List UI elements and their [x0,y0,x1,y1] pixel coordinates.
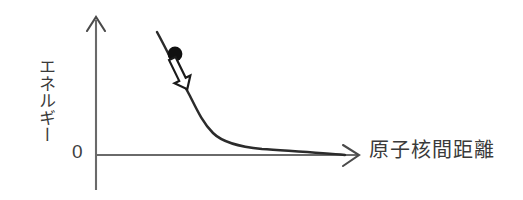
x-axis-label: 原子核間距離 [369,140,495,160]
y-axis-label: エネルギー [28,44,54,156]
plot-area [0,0,523,200]
block-arrow-down-right-icon [164,55,195,93]
origin-label: 0 [72,142,83,161]
energy-vs-internuclear-distance-figure: 0 エネルギー 原子核間距離 [0,0,523,200]
potential-energy-curve [157,32,345,155]
